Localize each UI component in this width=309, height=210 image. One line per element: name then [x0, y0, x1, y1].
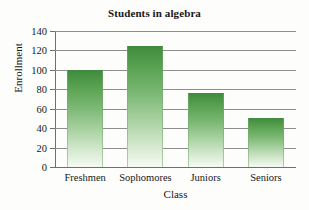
y-tick-mark [50, 167, 55, 168]
gridline [55, 167, 296, 168]
y-tick-label: 60 [37, 103, 48, 114]
bar-chart-figure: Students in algebra Enrollment 020406080… [0, 0, 309, 210]
y-tick-mark [50, 70, 55, 71]
y-tick-label: 40 [37, 123, 48, 134]
y-tick-mark [50, 50, 55, 51]
y-tick-mark [50, 89, 55, 90]
gridline [55, 31, 296, 32]
y-tick-label: 120 [31, 45, 47, 56]
y-tick-mark [50, 128, 55, 129]
y-tick-mark [50, 109, 55, 110]
y-tick-label: 140 [31, 26, 47, 37]
x-tick-label: Sophomores [119, 172, 172, 183]
x-tick-label: Juniors [190, 172, 220, 183]
y-tick-label: 100 [31, 64, 47, 75]
x-tick-label: Freshmen [64, 172, 105, 183]
x-axis-label: Class [55, 188, 296, 200]
bar [127, 46, 163, 167]
y-tick-mark [50, 31, 55, 32]
y-axis-label: Enrollment [12, 28, 24, 108]
y-tick-label: 0 [42, 162, 47, 173]
bar [67, 70, 103, 167]
gridline [55, 50, 296, 51]
x-tick-label: Seniors [250, 172, 282, 183]
chart-title: Students in algebra [0, 7, 309, 19]
y-tick-mark [50, 148, 55, 149]
y-tick-label: 20 [37, 142, 48, 153]
plot-area: 020406080100120140 FreshmenSophomoresJun… [55, 31, 296, 167]
bar [248, 118, 284, 167]
bar [188, 93, 224, 167]
y-tick-label: 80 [37, 84, 48, 95]
